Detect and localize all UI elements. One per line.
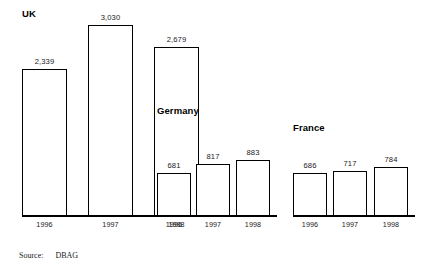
bar-value-germany-1998: 883 [247, 148, 260, 157]
tick-label-france-1997: 1997 [333, 220, 367, 229]
bar-slot-uk-1996: 2,339 [22, 16, 67, 216]
source-note: Source: DBAG [19, 251, 78, 260]
tick-label-germany-1996: 1996 [157, 220, 191, 229]
chart-page: UK 2,339 3,030 2,679 1996 1997 1998 Germ… [0, 0, 422, 273]
bar-uk-1997[interactable] [88, 25, 133, 216]
plot-area-germany: 681 817 883 [157, 16, 277, 216]
bar-germany-1996[interactable] [157, 173, 191, 216]
bar-value-france-1996: 686 [304, 161, 317, 170]
bar-value-uk-1997: 3,030 [101, 13, 121, 22]
source-value: DBAG [55, 251, 78, 260]
bar-slot-france-1997: 717 [333, 16, 367, 216]
bar-france-1998[interactable] [374, 167, 408, 216]
bar-slot-uk-1997: 3,030 [88, 16, 133, 216]
bar-slot-germany-1998: 883 [236, 16, 270, 216]
axis-line-france [293, 215, 415, 217]
bar-value-germany-1997: 817 [207, 152, 220, 161]
bar-value-france-1998: 784 [385, 155, 398, 164]
bar-value-france-1997: 717 [344, 159, 357, 168]
chart-group-germany: Germany 681 817 883 1996 1997 1998 [150, 0, 280, 236]
bar-value-germany-1996: 681 [168, 161, 181, 170]
plot-area-france: 686 717 784 [293, 16, 415, 216]
bar-france-1996[interactable] [293, 173, 327, 216]
bar-germany-1997[interactable] [196, 164, 230, 216]
tick-label-uk-1997: 1997 [88, 220, 133, 229]
bar-uk-1996[interactable] [22, 69, 67, 216]
bar-slot-france-1998: 784 [374, 16, 408, 216]
source-label: Source: [19, 251, 43, 260]
axis-line-germany [157, 215, 277, 217]
bar-slot-germany-1996: 681 [157, 16, 191, 216]
tick-label-france-1996: 1996 [293, 220, 327, 229]
tick-label-germany-1998: 1998 [236, 220, 270, 229]
tick-label-germany-1997: 1997 [196, 220, 230, 229]
chart-group-france: France 686 717 784 1996 1997 1998 [286, 0, 418, 236]
tick-label-uk-1996: 1996 [22, 220, 67, 229]
tick-label-france-1998: 1998 [374, 220, 408, 229]
bar-germany-1998[interactable] [236, 160, 270, 216]
bar-value-uk-1996: 2,339 [35, 57, 55, 66]
bar-france-1997[interactable] [333, 171, 367, 216]
bar-slot-france-1996: 686 [293, 16, 327, 216]
bar-slot-germany-1997: 817 [196, 16, 230, 216]
